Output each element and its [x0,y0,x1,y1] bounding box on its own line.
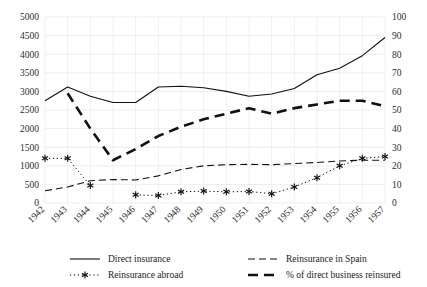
x-axis-tick-label: 1951 [230,204,251,225]
x-axis-tick-label: 1947 [139,204,160,225]
y-axis-right-tick-label: 40 [392,124,402,134]
y-axis-left-tick-label: 3000 [20,87,39,97]
y-axis-left-tick-label: 1500 [20,143,39,153]
svg-text:1957: 1957 [366,204,387,225]
y-axis-right-tick-label: 60 [392,87,402,97]
series-reinsurance-in-spain [45,160,385,191]
legend-label: Direct insurance [108,254,171,264]
chart-legend: Direct insuranceReinsurance in SpainRein… [70,254,401,280]
grid-layer [45,17,385,203]
y-axis-left-tick-label: 2500 [20,105,39,115]
y-axis-right-ticks: 0102030405060708090100 [392,12,407,208]
data-point-marker [42,155,48,162]
svg-text:1953: 1953 [275,204,296,225]
data-point-marker [359,155,365,162]
x-axis-tick-label: 1944 [71,204,92,225]
svg-text:1950: 1950 [207,204,228,225]
x-axis-tick-label: 1955 [321,204,342,225]
y-axis-left-tick-label: 500 [25,180,40,190]
y-axis-right-tick-label: 0 [392,198,397,208]
data-point-marker [223,188,229,195]
svg-text:1947: 1947 [139,204,160,225]
legend-label: Reinsurance in Spain [286,254,367,264]
series-direct-insurance [45,37,385,102]
data-point-marker [133,191,139,198]
x-axis-tick-label: 1946 [117,204,138,225]
y-axis-right-tick-label: 90 [392,31,402,41]
svg-text:1948: 1948 [162,204,183,225]
svg-text:1946: 1946 [117,204,138,225]
x-axis-tick-label: 1950 [207,204,228,225]
svg-text:1954: 1954 [298,204,319,225]
x-axis-tick-label: 1957 [366,204,387,225]
svg-text:1943: 1943 [49,204,70,225]
x-axis-ticks: 1942194319441945194619471948194919501951… [26,204,387,225]
svg-text:1949: 1949 [185,204,206,225]
y-axis-right-tick-label: 80 [392,50,402,60]
y-axis-right-tick-label: 20 [392,161,402,171]
data-point-marker [314,174,320,181]
y-axis-left-tick-label: 4000 [20,50,39,60]
x-axis-tick-label: 1943 [49,204,70,225]
legend-item: Reinsurance abroad [70,270,183,280]
svg-text:1955: 1955 [321,204,342,225]
x-axis-tick-label: 1942 [26,204,47,225]
svg-text:1944: 1944 [71,204,92,225]
data-point-marker [246,188,252,195]
x-axis-tick-label: 1948 [162,204,183,225]
series-layer [42,37,388,199]
legend-item: Direct insurance [70,254,171,264]
series-line [136,157,385,196]
legend-item: % of direct business reinsured [248,270,401,280]
y-axis-left-tick-label: 5000 [20,12,39,22]
x-axis-tick-label: 1956 [343,204,364,225]
y-axis-left-tick-label: 2000 [20,124,39,134]
y-axis-right-tick-label: 100 [392,12,407,22]
x-axis-tick-label: 1954 [298,204,319,225]
y-axis-right-tick-label: 50 [392,105,402,115]
y-axis-left-tick-label: 4500 [20,31,39,41]
y-axis-left-tick-label: 3500 [20,68,39,78]
x-axis-tick-label: 1952 [253,204,274,225]
svg-text:1942: 1942 [26,204,47,225]
y-axis-right-tick-label: 30 [392,143,402,153]
y-axis-right-tick-label: 70 [392,68,402,78]
series-line [45,37,385,102]
y-axis-left-ticks: 0500100015002000250030003500400045005000 [20,12,39,208]
line-chart: 0500100015002000250030003500400045005000… [0,0,427,287]
svg-text:1951: 1951 [230,204,251,225]
x-axis-tick-label: 1949 [185,204,206,225]
y-axis-right-tick-label: 10 [392,180,402,190]
chart-container: 0500100015002000250030003500400045005000… [0,0,427,287]
svg-text:1956: 1956 [343,204,364,225]
legend-item: Reinsurance in Spain [248,254,367,264]
svg-text:1945: 1945 [94,204,115,225]
svg-text:1952: 1952 [253,204,274,225]
x-axis-tick-label: 1953 [275,204,296,225]
y-axis-left-tick-label: 1000 [20,161,39,171]
legend-label: Reinsurance abroad [108,270,183,280]
series-line [45,160,385,191]
series-reinsurance-abroad [42,153,388,199]
legend-label: % of direct business reinsured [286,270,401,280]
x-axis-tick-label: 1945 [94,204,115,225]
data-point-marker [269,190,275,197]
